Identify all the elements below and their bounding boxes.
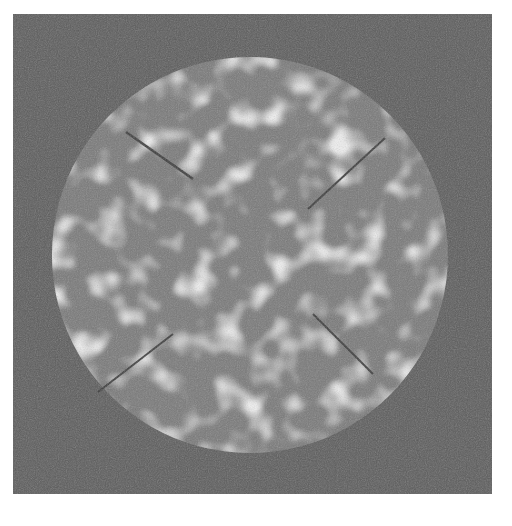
speckle-ring-image (13, 14, 492, 494)
photograph (13, 14, 492, 494)
